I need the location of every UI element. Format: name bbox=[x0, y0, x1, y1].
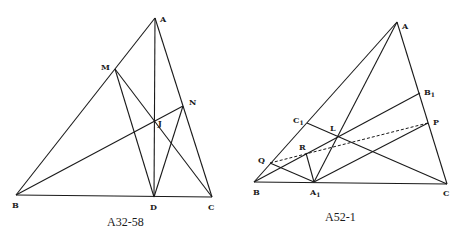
label-D: D bbox=[150, 202, 157, 212]
label-B1: B1 bbox=[424, 87, 435, 98]
label-A: A bbox=[159, 14, 167, 24]
segment-BB1 bbox=[254, 93, 420, 182]
label-C1: C1 bbox=[293, 115, 304, 126]
segment-MC bbox=[115, 69, 212, 197]
label-C: C bbox=[443, 188, 449, 198]
figure-a52-1: A B1 P C1 L R Q B A1 C A52-1 bbox=[253, 21, 449, 224]
label-C: C bbox=[208, 202, 214, 212]
caption-a32-58: A32-58 bbox=[107, 215, 144, 229]
label-L: L bbox=[330, 123, 336, 133]
diagram-canvas: A M N J B D C A32-58 A B1 P C1 L R Q B A… bbox=[0, 0, 460, 240]
segment-RA1 bbox=[306, 153, 314, 182]
label-B: B bbox=[12, 200, 19, 210]
figure-a32-58: A M N J B D C A32-58 bbox=[12, 14, 214, 229]
label-B: B bbox=[253, 187, 260, 197]
segment-AC bbox=[397, 22, 447, 184]
label-Q: Q bbox=[258, 155, 265, 165]
segment-AA1 bbox=[314, 22, 397, 182]
caption-a52-1: A52-1 bbox=[325, 210, 356, 224]
label-A1: A1 bbox=[309, 187, 320, 198]
segment-QA1 bbox=[270, 163, 314, 182]
segment-BC bbox=[254, 182, 447, 184]
segment-AB bbox=[16, 18, 155, 195]
segment-BC bbox=[16, 195, 212, 197]
label-P: P bbox=[433, 117, 439, 127]
segment-AD bbox=[154, 18, 155, 197]
segment-AB bbox=[254, 22, 397, 182]
label-J: J bbox=[157, 118, 162, 128]
label-A: A bbox=[401, 21, 409, 31]
segment-AC bbox=[155, 18, 212, 197]
label-M: M bbox=[101, 62, 110, 72]
label-R: R bbox=[299, 142, 306, 152]
label-N: N bbox=[189, 97, 196, 107]
dashed-segment-QP bbox=[270, 123, 428, 163]
segment-MD bbox=[115, 69, 154, 197]
